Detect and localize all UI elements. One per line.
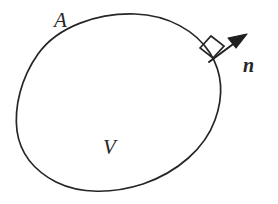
normal-vector-label: n bbox=[243, 55, 254, 75]
surface-label: A bbox=[54, 10, 67, 31]
control-volume-boundary bbox=[16, 14, 220, 191]
figure-canvas bbox=[0, 0, 278, 204]
volume-label: V bbox=[103, 137, 116, 158]
control-volume-figure: A V n bbox=[0, 0, 278, 204]
